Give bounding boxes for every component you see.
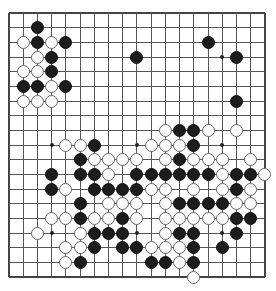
black-stone[interactable] bbox=[187, 139, 200, 152]
white-stone[interactable] bbox=[187, 183, 200, 196]
white-stone[interactable] bbox=[59, 241, 72, 254]
black-stone[interactable] bbox=[187, 241, 200, 254]
black-stone[interactable] bbox=[173, 227, 186, 240]
white-stone[interactable] bbox=[173, 139, 186, 152]
white-stone[interactable] bbox=[74, 227, 87, 240]
white-stone[interactable] bbox=[130, 197, 143, 210]
black-stone[interactable] bbox=[45, 51, 58, 64]
black-stone[interactable] bbox=[88, 139, 101, 152]
white-stone[interactable] bbox=[59, 139, 72, 152]
black-stone[interactable] bbox=[187, 168, 200, 181]
white-stone[interactable] bbox=[159, 227, 172, 240]
white-stone[interactable] bbox=[45, 80, 58, 93]
black-stone[interactable] bbox=[202, 197, 215, 210]
black-stone[interactable] bbox=[173, 197, 186, 210]
white-stone[interactable] bbox=[102, 212, 115, 225]
black-stone[interactable] bbox=[244, 212, 257, 225]
black-stone[interactable] bbox=[202, 168, 215, 181]
black-stone[interactable] bbox=[31, 80, 44, 93]
white-stone[interactable] bbox=[244, 183, 257, 196]
black-stone[interactable] bbox=[88, 227, 101, 240]
white-stone[interactable] bbox=[145, 183, 158, 196]
white-stone[interactable] bbox=[187, 212, 200, 225]
white-stone[interactable] bbox=[130, 153, 143, 166]
black-stone[interactable] bbox=[159, 168, 172, 181]
white-stone[interactable] bbox=[216, 153, 229, 166]
black-stone[interactable] bbox=[59, 36, 72, 49]
black-stone[interactable] bbox=[187, 227, 200, 240]
white-stone[interactable] bbox=[216, 168, 229, 181]
black-stone[interactable] bbox=[173, 124, 186, 137]
white-stone[interactable] bbox=[31, 51, 44, 64]
black-stone[interactable] bbox=[216, 197, 229, 210]
black-stone[interactable] bbox=[202, 36, 215, 49]
white-stone[interactable] bbox=[74, 241, 87, 254]
white-stone[interactable] bbox=[244, 153, 257, 166]
black-stone[interactable] bbox=[145, 168, 158, 181]
white-stone[interactable] bbox=[159, 153, 172, 166]
black-stone[interactable] bbox=[17, 80, 30, 93]
black-stone[interactable] bbox=[88, 241, 101, 254]
black-stone[interactable] bbox=[145, 256, 158, 269]
white-stone[interactable] bbox=[17, 65, 30, 78]
black-stone[interactable] bbox=[74, 212, 87, 225]
black-stone[interactable] bbox=[45, 65, 58, 78]
black-stone[interactable] bbox=[116, 227, 129, 240]
black-stone[interactable] bbox=[187, 124, 200, 137]
white-stone[interactable] bbox=[116, 153, 129, 166]
white-stone[interactable] bbox=[145, 241, 158, 254]
black-stone[interactable] bbox=[88, 183, 101, 196]
white-stone[interactable] bbox=[202, 212, 215, 225]
black-stone[interactable] bbox=[130, 241, 143, 254]
white-stone[interactable] bbox=[17, 95, 30, 108]
black-stone[interactable] bbox=[74, 153, 87, 166]
white-stone[interactable] bbox=[31, 95, 44, 108]
white-stone[interactable] bbox=[216, 212, 229, 225]
black-stone[interactable] bbox=[116, 212, 129, 225]
black-stone[interactable] bbox=[130, 168, 143, 181]
white-stone[interactable] bbox=[45, 95, 58, 108]
white-stone[interactable] bbox=[88, 212, 101, 225]
black-stone[interactable] bbox=[74, 168, 87, 181]
black-stone[interactable] bbox=[216, 241, 229, 254]
black-stone[interactable] bbox=[244, 168, 257, 181]
white-stone[interactable] bbox=[187, 153, 200, 166]
white-stone[interactable] bbox=[258, 168, 271, 181]
white-stone[interactable] bbox=[88, 153, 101, 166]
white-stone[interactable] bbox=[102, 168, 115, 181]
black-stone[interactable] bbox=[116, 183, 129, 196]
white-stone[interactable] bbox=[102, 197, 115, 210]
white-stone[interactable] bbox=[187, 271, 200, 284]
black-stone[interactable] bbox=[230, 212, 243, 225]
black-stone[interactable] bbox=[187, 197, 200, 210]
white-stone[interactable] bbox=[159, 124, 172, 137]
black-stone[interactable] bbox=[116, 241, 129, 254]
white-stone[interactable] bbox=[216, 183, 229, 196]
white-stone[interactable] bbox=[159, 139, 172, 152]
black-stone[interactable] bbox=[74, 197, 87, 210]
white-stone[interactable] bbox=[230, 197, 243, 210]
black-stone[interactable] bbox=[102, 183, 115, 196]
black-stone[interactable] bbox=[74, 256, 87, 269]
go-board[interactable] bbox=[0, 0, 276, 291]
white-stone[interactable] bbox=[45, 36, 58, 49]
white-stone[interactable] bbox=[31, 227, 44, 240]
white-stone[interactable] bbox=[173, 241, 186, 254]
white-stone[interactable] bbox=[159, 183, 172, 196]
black-stone[interactable] bbox=[130, 183, 143, 196]
white-stone[interactable] bbox=[31, 65, 44, 78]
black-stone[interactable] bbox=[45, 183, 58, 196]
white-stone[interactable] bbox=[230, 124, 243, 137]
white-stone[interactable] bbox=[202, 153, 215, 166]
white-stone[interactable] bbox=[244, 197, 257, 210]
black-stone[interactable] bbox=[88, 168, 101, 181]
white-stone[interactable] bbox=[159, 241, 172, 254]
black-stone[interactable] bbox=[230, 168, 243, 181]
white-stone[interactable] bbox=[116, 197, 129, 210]
black-stone[interactable] bbox=[230, 51, 243, 64]
white-stone[interactable] bbox=[202, 124, 215, 137]
black-stone[interactable] bbox=[173, 168, 186, 181]
white-stone[interactable] bbox=[17, 36, 30, 49]
white-stone[interactable] bbox=[159, 212, 172, 225]
black-stone[interactable] bbox=[45, 168, 58, 181]
